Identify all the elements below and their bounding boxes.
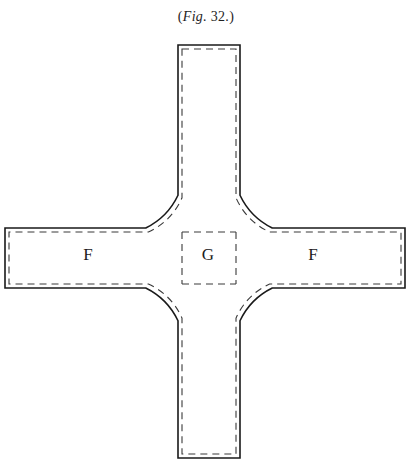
figure-container: (Fig. 32.) FGF: [0, 0, 412, 471]
label-g-center: G: [202, 245, 214, 264]
label-group: FGF: [83, 245, 317, 264]
cruciform-diagram: FGF: [0, 0, 412, 471]
label-f-left: F: [83, 245, 92, 264]
label-f-right: F: [308, 245, 317, 264]
